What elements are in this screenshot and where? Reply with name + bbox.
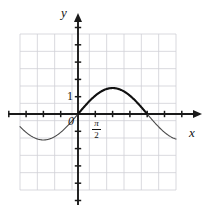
y-axis-label: y [61, 6, 67, 19]
fraction-denominator: 2 [88, 131, 105, 140]
x-tick-label-pi-over-two: π 2 [88, 119, 105, 140]
y-tick-label-one: 1 [67, 90, 73, 102]
fraction-numerator: π [88, 119, 105, 128]
x-axis-label: x [189, 126, 195, 139]
graph-figure: y x 1 0 π 2 [0, 0, 209, 212]
coordinate-plane-svg [0, 0, 209, 212]
origin-label: 0 [68, 115, 74, 127]
sine-curve-bold [78, 88, 147, 114]
